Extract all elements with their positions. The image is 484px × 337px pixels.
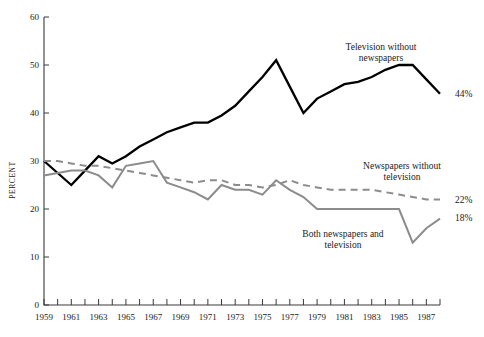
- end-label-television-without-newspapers: 44%: [455, 89, 473, 99]
- x-axis-tick-label: 1959: [35, 312, 54, 322]
- x-axis-tick-label: 1961: [62, 312, 80, 322]
- x-axis-tick-label: 1983: [363, 312, 382, 322]
- x-axis-tick-label: 1977: [281, 312, 300, 322]
- annotation-line-1: Television without: [346, 42, 417, 52]
- y-axis-tick-label: 60: [30, 12, 40, 22]
- annotation-line-2: television: [384, 172, 421, 182]
- x-axis-tick-label: 1981: [335, 312, 353, 322]
- annotation-line-1: Both newspapers and: [302, 229, 384, 239]
- annotation-line-1: Newspapers without: [363, 161, 441, 171]
- x-axis-tick-label: 1985: [390, 312, 409, 322]
- end-label-both-newspapers-and-television: 18%: [455, 213, 473, 223]
- end-label-newspapers-without-television: 22%: [455, 195, 473, 205]
- y-axis-tick-label: 20: [30, 204, 40, 214]
- chart-container: 0102030405060195919611963196519671969197…: [0, 0, 484, 337]
- annotation-line-2: television: [325, 240, 362, 250]
- x-axis-tick-label: 1967: [144, 312, 163, 322]
- x-axis-tick-label: 1963: [90, 312, 109, 322]
- line-chart-svg: 0102030405060195919611963196519671969197…: [0, 0, 484, 337]
- y-axis-tick-label: 30: [30, 156, 40, 166]
- annotation-newspapers-without-television: Newspapers withouttelevision: [363, 161, 441, 182]
- x-axis-tick-label: 1987: [417, 312, 436, 322]
- annotation-television-without-newspapers: Television withoutnewspapers: [346, 42, 417, 63]
- x-axis-tick-label: 1973: [226, 312, 245, 322]
- series-group: [44, 60, 440, 242]
- y-axis-tick-label: 10: [30, 252, 40, 262]
- y-axis-tick-label: 0: [35, 300, 40, 310]
- x-axis-tick-label: 1965: [117, 312, 136, 322]
- x-axis-tick-label: 1975: [253, 312, 272, 322]
- x-axis-tick-label: 1979: [308, 312, 327, 322]
- y-axis-tick-label: 40: [30, 108, 40, 118]
- annotation-line-2: newspapers: [359, 53, 404, 63]
- annotation-both-newspapers-and-television: Both newspapers andtelevision: [302, 229, 384, 250]
- y-axis-title: PERCENT: [8, 161, 17, 199]
- x-axis-tick-label: 1971: [199, 312, 217, 322]
- end-labels-group: 44%22%18%: [455, 89, 473, 223]
- y-axis-tick-label: 50: [30, 60, 40, 70]
- x-axis-tick-label: 1969: [172, 312, 191, 322]
